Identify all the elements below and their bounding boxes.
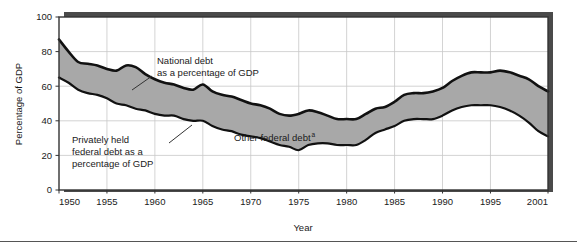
- x-axis-tick-label: 1980: [336, 196, 357, 207]
- x-axis-title: Year: [293, 222, 312, 233]
- debt-percentage-of-gdp-area-chart: 1950195519601965197019751980198519901995…: [0, 0, 577, 250]
- x-axis-tick-label: 1970: [240, 196, 261, 207]
- y-axis-tick-label: 60: [41, 81, 52, 92]
- y-axis-tick-labels: 020406080100: [36, 11, 52, 195]
- other-federal-debt-annotation-text: Other federal debt: [234, 132, 311, 143]
- figure-container: 1950195519601965197019751980198519901995…: [0, 0, 577, 250]
- national-debt-annotation-line2: as a percentage of GDP: [157, 67, 259, 78]
- privately-held-debt-annotation-line1: Privately held: [72, 134, 129, 145]
- y-axis-tick-label: 100: [36, 11, 52, 22]
- x-axis-tick-label: 1955: [96, 196, 117, 207]
- y-axis-tick-label: 40: [41, 115, 52, 126]
- national-debt-annotation-line1: National debt: [157, 55, 213, 66]
- y-axis-tick-label: 80: [41, 46, 52, 57]
- privately-held-debt-annotation-line2: federal debt as a: [72, 146, 143, 157]
- x-axis-tick-label: 1995: [480, 196, 501, 207]
- x-axis-tick-label: 1990: [432, 196, 453, 207]
- x-axis-tick-label: 2001: [527, 196, 548, 207]
- x-axis-tick-label: 1965: [192, 196, 213, 207]
- x-axis-tick-label: 1960: [144, 196, 165, 207]
- privately-held-debt-annotation-line3: percentage of GDP: [72, 158, 153, 169]
- x-axis-tick-labels: 1950195519601965197019751980198519901995…: [59, 196, 548, 207]
- other-federal-debt-annotation: Other federal debt a: [234, 131, 316, 143]
- y-axis-title: Percentage of GDP: [13, 63, 24, 145]
- x-axis-tick-label: 1950: [59, 196, 80, 207]
- y-axis-tick-label: 20: [41, 150, 52, 161]
- x-axis-tick-label: 1985: [384, 196, 405, 207]
- y-axis-tick-label: 0: [47, 184, 52, 195]
- x-axis-tick-label: 1975: [288, 196, 309, 207]
- other-federal-debt-annotation-superscript: a: [312, 131, 316, 138]
